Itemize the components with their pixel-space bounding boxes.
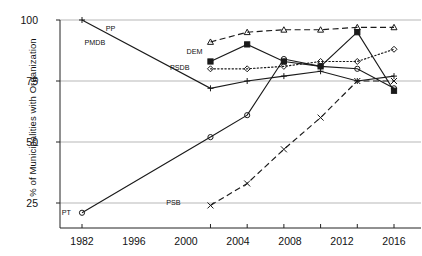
chart-figure: % of Municipalities with Organization 10…	[0, 0, 422, 256]
axis-ticks	[56, 20, 394, 228]
series-pt	[79, 56, 396, 215]
data-series-layer	[79, 17, 397, 215]
series-label-psb: PSB	[166, 198, 180, 207]
data-point-psb	[281, 146, 287, 152]
data-point-dem	[208, 59, 213, 64]
axis-lines	[60, 20, 421, 228]
series-label-pmdb: PMDB	[85, 38, 106, 47]
series-pp	[79, 17, 397, 91]
series-label-pp: PP	[106, 24, 116, 33]
series-pmdb	[207, 24, 397, 44]
data-point-pp	[281, 73, 287, 79]
data-point-pp	[207, 85, 213, 91]
data-point-psb	[318, 115, 324, 121]
data-point-psb	[244, 180, 250, 186]
data-point-dem	[245, 42, 250, 47]
plot-area	[0, 0, 422, 256]
series-label-pt: PT	[62, 208, 71, 217]
data-point-pp	[79, 17, 85, 23]
series-label-dem: DEM	[186, 47, 202, 56]
data-point-dem	[355, 30, 360, 35]
series-psb	[207, 78, 397, 208]
series-label-psdb: PSDB	[170, 63, 190, 72]
data-point-pp	[244, 78, 250, 84]
data-point-psdb	[391, 46, 397, 52]
series-dem	[208, 30, 397, 94]
